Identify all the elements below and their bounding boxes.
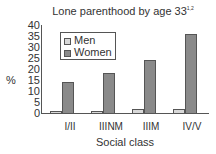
bar-men <box>132 109 144 114</box>
y-axis-label: % <box>6 74 16 86</box>
legend-item-women: Women <box>64 46 112 58</box>
bar-men <box>173 109 185 114</box>
bar-men <box>91 111 103 114</box>
x-tick: IIIM <box>131 121 171 132</box>
bar-women <box>144 60 156 114</box>
bar-women <box>185 34 197 114</box>
bar-women <box>62 82 74 114</box>
bar-women <box>103 73 115 114</box>
chart-title: Lone parenthood by age 331,2 <box>0 5 216 17</box>
legend-swatch <box>64 50 71 57</box>
legend: Men Women <box>60 32 116 60</box>
x-tick: IV/V <box>172 121 212 132</box>
y-axis <box>41 25 42 114</box>
x-axis-label: Social class <box>41 136 209 148</box>
y-tick: 0 <box>22 108 40 119</box>
legend-item-men: Men <box>64 34 112 46</box>
legend-swatch <box>64 38 71 45</box>
x-tick: IIINM <box>91 121 131 132</box>
x-tick: I/II <box>50 121 90 132</box>
bar-men <box>50 111 62 114</box>
